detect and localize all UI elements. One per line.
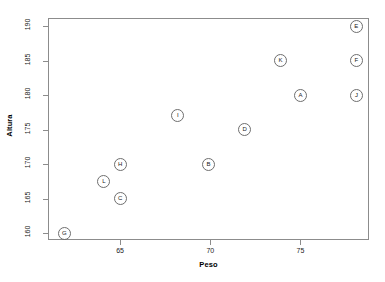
x-axis-title: Peso: [48, 260, 369, 269]
y-tick-mark: [43, 233, 48, 234]
y-tick-label: 180: [24, 83, 31, 105]
y-tick-label: 160: [24, 221, 31, 243]
y-tick-label: 175: [24, 117, 31, 139]
data-point: E: [350, 20, 363, 33]
y-tick-label: 165: [24, 186, 31, 208]
data-point: C: [114, 192, 127, 205]
y-tick-mark: [43, 26, 48, 27]
x-tick-mark: [210, 240, 211, 245]
plot-panel: [48, 18, 369, 240]
data-point: H: [114, 158, 127, 171]
x-tick-mark: [120, 240, 121, 245]
y-tick-label: 190: [24, 14, 31, 36]
data-point: B: [202, 158, 215, 171]
data-point: A: [294, 89, 307, 102]
x-tick-label: 65: [108, 247, 132, 254]
y-tick-mark: [43, 95, 48, 96]
data-point: G: [58, 227, 71, 240]
y-tick-mark: [43, 130, 48, 131]
x-tick-mark: [300, 240, 301, 245]
x-tick-label: 75: [288, 247, 312, 254]
data-point: J: [350, 89, 363, 102]
y-tick-label: 185: [24, 48, 31, 70]
y-tick-label: 170: [24, 152, 31, 174]
y-tick-mark: [43, 199, 48, 200]
x-tick-label: 70: [198, 247, 222, 254]
y-axis-title: Altura: [5, 103, 14, 149]
y-tick-mark: [43, 164, 48, 165]
y-tick-mark: [43, 61, 48, 62]
scatter-plot-figure: 160165170175180185190 657075 GLCHIBDKAEF…: [0, 0, 385, 282]
